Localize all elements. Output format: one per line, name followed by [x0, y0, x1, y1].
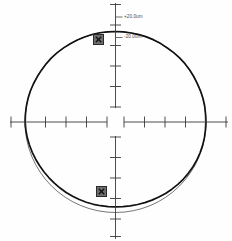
x-in-box-icon-upper[interactable] — [93, 34, 104, 45]
x-in-box-icon-lower[interactable] — [96, 186, 107, 197]
x-icon — [97, 187, 106, 196]
scale-label-upper: +20.0um — [124, 14, 143, 19]
roundness-chart: +20.0um -20.0um — [0, 0, 232, 241]
x-icon — [94, 35, 103, 44]
roundness-plot-canvas — [0, 0, 232, 241]
scale-label-leaders — [116, 17, 123, 38]
scale-label-lower: -20.0um — [124, 35, 142, 40]
